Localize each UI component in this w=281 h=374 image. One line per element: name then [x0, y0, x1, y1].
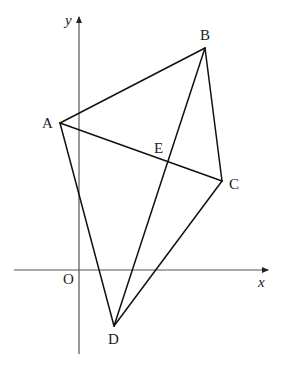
geometry-diagram: ABCDEOxy: [0, 0, 281, 374]
point-label-E: E: [154, 140, 163, 156]
point-label-D: D: [108, 331, 119, 347]
segment-AB: [60, 48, 205, 123]
y-axis-label: y: [63, 12, 72, 28]
point-label-C: C: [229, 176, 239, 192]
segment-AC: [60, 123, 222, 181]
origin-label: O: [63, 271, 74, 287]
quadrilateral-segments: [60, 48, 222, 326]
segment-BD: [114, 48, 205, 326]
point-label-B: B: [200, 27, 210, 43]
x-axis-label: x: [257, 274, 265, 290]
point-label-A: A: [42, 115, 53, 131]
segment-BC: [205, 48, 222, 181]
segment-CD: [114, 181, 222, 326]
diagram-svg: ABCDEOxy: [0, 0, 281, 374]
segment-DA: [60, 123, 114, 326]
